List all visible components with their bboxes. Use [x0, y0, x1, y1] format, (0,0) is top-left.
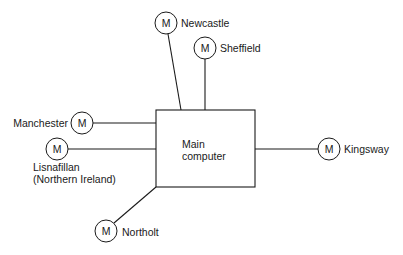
node-newcastle: M Newcastle	[155, 12, 230, 34]
link-newcastle	[168, 34, 181, 110]
node-lisnafillan: M Lisnafillan (Northern Ireland)	[33, 138, 116, 185]
modem-symbol: M	[78, 117, 87, 129]
main-computer-box	[156, 110, 255, 187]
modem-symbol: M	[53, 143, 62, 155]
node-label-northolt: Northolt	[122, 226, 159, 238]
modem-symbol: M	[102, 225, 111, 237]
main-computer-label-line1: Main	[182, 138, 205, 150]
node-manchester: M Manchester	[13, 112, 93, 134]
link-northolt	[114, 187, 156, 223]
main-computer-node: Main computer	[156, 110, 255, 187]
node-label-newcastle: Newcastle	[181, 17, 230, 29]
modem-symbol: M	[201, 42, 210, 54]
node-sheffield: M Sheffield	[194, 37, 261, 59]
node-label-sheffield: Sheffield	[220, 42, 261, 54]
node-label-lisnafillan-line1: Lisnafillan	[33, 161, 80, 173]
network-diagram: Main computer M Newcastle M Sheffield M …	[0, 0, 403, 255]
node-label-manchester: Manchester	[13, 117, 68, 129]
main-computer-label-line2: computer	[182, 150, 226, 162]
modem-symbol: M	[325, 143, 334, 155]
modem-symbol: M	[162, 17, 171, 29]
node-northolt: M Northolt	[95, 220, 159, 242]
node-kingsway: M Kingsway	[318, 138, 390, 160]
node-label-kingsway: Kingsway	[344, 143, 390, 155]
node-label-lisnafillan-line2: (Northern Ireland)	[33, 173, 116, 185]
